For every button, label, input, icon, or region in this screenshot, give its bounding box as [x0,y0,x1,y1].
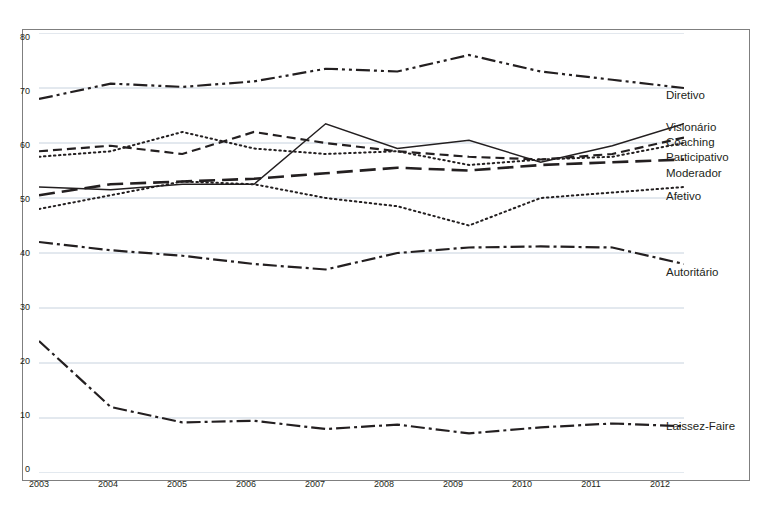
y-tick-label: 0 [10,464,30,474]
series-line [39,160,684,196]
x-tick-label: 2003 [22,479,56,489]
y-tick-label: 30 [10,302,30,312]
y-tick-label: 80 [10,32,30,42]
x-tick-label: 2009 [436,479,470,489]
series-label-visionario: Visionário [666,121,716,133]
chart-container: 80 70 60 50 40 30 20 10 0 2003 2004 2005… [0,0,772,525]
x-tick-label: 2007 [298,479,332,489]
series-line [39,341,684,433]
series-label-moderador: Moderador [666,167,722,179]
series-lines [39,33,684,473]
series-line [39,132,684,165]
series-line [39,55,684,99]
series-label-autoritario: Autoritário [666,266,718,278]
series-line [39,242,684,270]
x-tick-label: 2012 [643,479,677,489]
series-label-afetivo: Afetivo [666,190,701,202]
series-label-coaching: Coaching [666,136,715,148]
x-tick-label: 2011 [574,479,608,489]
x-tick-label: 2010 [505,479,539,489]
x-tick-label: 2008 [367,479,401,489]
series-label-laissez-faire: Laissez-Faire [666,420,735,432]
x-tick-label: 2005 [160,479,194,489]
y-tick-label: 70 [10,86,30,96]
series-label-diretivo: Diretivo [666,89,705,101]
x-tick-label: 2006 [229,479,263,489]
series-label-participativo: Participativo [666,151,729,163]
y-tick-label: 10 [10,410,30,420]
y-tick-label: 50 [10,194,30,204]
y-tick-label: 60 [10,140,30,150]
x-tick-label: 2004 [91,479,125,489]
y-tick-label: 40 [10,248,30,258]
plot-area [39,33,684,473]
y-tick-label: 20 [10,356,30,366]
